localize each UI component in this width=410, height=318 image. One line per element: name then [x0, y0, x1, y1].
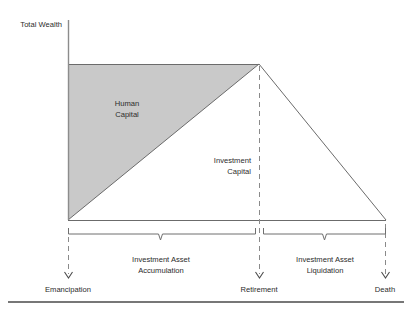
accumulation-bracket — [69, 228, 256, 240]
human-capital-label-line2: Capital — [115, 110, 139, 119]
liquidation-phase-label-line2: Liquidation — [307, 266, 344, 275]
y-axis-label: Total Wealth — [20, 20, 62, 29]
emancipation-arrow-icon — [65, 272, 73, 278]
investment-capital-label-line2: Capital — [227, 167, 251, 176]
milestone-label-retirement: Retirement — [240, 285, 278, 294]
milestone-label-death: Death — [375, 285, 395, 294]
wealth-lifecycle-diagram: Total Wealth Human Capital Investment Ca… — [0, 0, 410, 318]
diagram-canvas: Total Wealth Human Capital Investment Ca… — [0, 0, 410, 318]
retirement-arrow-icon — [256, 272, 264, 278]
liquidation-phase-label-line1: Investment Asset — [296, 255, 355, 264]
accumulation-phase-label-line1: Investment Asset — [132, 255, 191, 264]
liquidation-bracket — [264, 228, 386, 240]
accumulation-phase-label-line2: Accumulation — [138, 266, 184, 275]
investment-capital-label-line1: Investment — [214, 156, 252, 165]
investment-capital-liquidation-line — [259, 64, 386, 220]
milestone-label-emancipation: Emancipation — [45, 285, 91, 294]
human-capital-label-line1: Human — [115, 99, 139, 108]
